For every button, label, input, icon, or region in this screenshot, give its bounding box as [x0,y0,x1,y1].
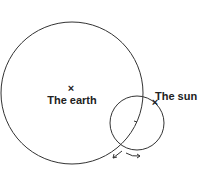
sun-label: The sun [155,90,197,102]
earth-label: The earth [47,94,97,106]
arrow-right-icon [126,153,140,158]
earth-sun-diagram: × The earth × The sun [0,0,202,176]
tick-mark [134,121,137,122]
earth-center-marker: × [68,82,74,94]
arrow-left-icon [113,151,122,158]
